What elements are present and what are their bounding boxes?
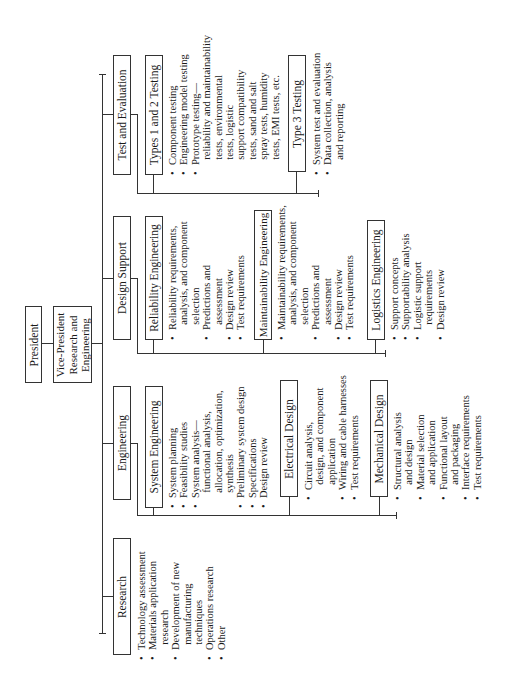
vice-president-label: Vice-President Research and Engineering xyxy=(54,312,92,377)
system-engineering-items: System planning Feasibility studies Syst… xyxy=(167,387,270,508)
eng-elec-leg xyxy=(289,497,290,515)
list-item: Data collection, analysis and reporting xyxy=(322,53,345,175)
mechanical-design-label: Mechanical Design xyxy=(373,394,386,483)
list-item: System test and evaluation xyxy=(311,53,322,175)
eng-sys-leg xyxy=(153,508,154,515)
types-1-2-testing-label: Types 1 and 2 Testing xyxy=(148,65,161,165)
ds-bus xyxy=(137,353,385,354)
maintainability-engineering-box: Maintainability Engineering xyxy=(254,210,272,340)
reliability-engineering-label: Reliability Engineering xyxy=(148,224,161,332)
list-item: Wiring and cable harnesses xyxy=(337,375,348,500)
list-item: Other xyxy=(216,551,227,660)
vp-trunk-connector xyxy=(91,343,102,344)
list-item: Logistic support requirements xyxy=(412,233,435,340)
ds-log-leg xyxy=(375,340,376,353)
list-item: Design review xyxy=(224,221,235,340)
mechanical-design-box: Mechanical Design xyxy=(370,380,388,497)
list-item: Predictions and assessment xyxy=(201,221,224,340)
mechanical-design-items: Structural analysis and design Material … xyxy=(392,395,483,500)
engineering-box: Engineering xyxy=(113,386,131,500)
list-item: Maintainability requirements, analysis, … xyxy=(276,205,310,340)
connector-test-eval xyxy=(102,114,113,115)
te-stub xyxy=(130,114,137,115)
list-item: Specifications xyxy=(247,387,258,508)
te-t12-leg xyxy=(153,175,154,193)
list-item: Functional layout and packaging xyxy=(438,395,461,500)
list-item: Test requirements xyxy=(344,205,355,340)
list-item: Operations research xyxy=(204,551,215,660)
list-item: Design review xyxy=(258,387,269,508)
eng-stub xyxy=(130,443,137,444)
eng-drop xyxy=(137,443,138,515)
eng-mech-leg xyxy=(379,497,380,515)
types-1-2-testing-items: Component testing Engineering model test… xyxy=(167,35,281,175)
connector-engineering xyxy=(102,443,113,444)
logistics-engineering-items: Support concepts Supportability analysis… xyxy=(389,233,446,340)
list-item: Design review xyxy=(435,233,446,340)
te-bus xyxy=(137,193,318,194)
test-evaluation-label: Test and Evaluation xyxy=(116,69,129,160)
list-item: Predictions and assessment xyxy=(310,205,333,340)
system-engineering-label: System Engineering xyxy=(148,401,161,494)
ds-maint-leg xyxy=(263,340,264,353)
design-support-box: Design Support xyxy=(113,216,131,340)
list-item: Engineering model testing xyxy=(178,35,189,175)
design-support-label: Design Support xyxy=(116,242,129,314)
eng-bus-end xyxy=(396,512,397,519)
list-item: Supportability analysis xyxy=(400,233,411,340)
engineering-label: Engineering xyxy=(116,415,129,471)
ds-stub xyxy=(130,278,137,279)
list-item: Development of new manufacturing techniq… xyxy=(170,551,204,660)
reliability-engineering-box: Reliability Engineering xyxy=(145,216,163,340)
test-evaluation-box: Test and Evaluation xyxy=(113,55,131,175)
te-drop xyxy=(137,114,138,193)
electrical-design-box: Electrical Design xyxy=(280,380,298,497)
te-t3-leg xyxy=(296,172,297,193)
trunk-top-cap xyxy=(99,74,106,75)
maintainability-engineering-label: Maintainability Engineering xyxy=(257,213,269,337)
electrical-design-label: Electrical Design xyxy=(283,399,296,479)
list-item: Preliminary system design xyxy=(235,387,246,508)
list-item: Test requirements xyxy=(235,221,246,340)
vice-president-box: Vice-President Research and Engineering xyxy=(53,306,92,383)
connector-research xyxy=(102,596,113,597)
ds-bus-end xyxy=(385,350,386,357)
maintainability-engineering-items: Maintainability requirements, analysis, … xyxy=(276,205,356,340)
list-item: Test requirements xyxy=(349,375,360,500)
list-item: Component testing xyxy=(167,35,178,175)
research-items: Technology assessment Materials applicat… xyxy=(136,551,227,660)
research-box: Research xyxy=(113,538,131,655)
list-item: Technology assessment xyxy=(136,551,147,660)
ds-drop xyxy=(137,278,138,353)
trunk-bottom-cap xyxy=(99,633,106,634)
eng-bus xyxy=(137,515,397,516)
list-item: System planning xyxy=(167,387,178,508)
list-item: Material selection and application xyxy=(415,395,438,500)
list-item: Prototype testing— reliability and maint… xyxy=(190,35,281,175)
list-item: Design review xyxy=(333,205,344,340)
main-trunk xyxy=(102,74,103,634)
types-1-2-testing-box: Types 1 and 2 Testing xyxy=(145,55,163,175)
connector-design-support xyxy=(102,278,113,279)
research-label: Research xyxy=(116,575,129,617)
type-3-testing-box: Type 3 Testing xyxy=(288,55,306,172)
reliability-engineering-items: Reliability requirements, analysis, and … xyxy=(167,221,247,340)
list-item: Interface requirements xyxy=(460,395,471,500)
ds-rel-leg xyxy=(153,340,154,353)
list-item: System analysis— functional analysis, al… xyxy=(190,387,236,508)
org-chart: President Vice-President Research and En… xyxy=(0,0,507,681)
list-item: Reliability requirements, analysis, and … xyxy=(167,221,201,340)
president-label: President xyxy=(27,323,40,366)
president-box: President xyxy=(25,306,42,383)
te-bus-end xyxy=(318,190,319,197)
system-engineering-box: System Engineering xyxy=(145,386,163,508)
type-3-testing-label: Type 3 Testing xyxy=(291,80,304,148)
list-item: Structural analysis and design xyxy=(392,395,415,500)
type-3-testing-items: System test and evaluation Data collecti… xyxy=(311,53,345,175)
list-item: Feasibility studies xyxy=(178,387,189,508)
list-item: Support concepts xyxy=(389,233,400,340)
logistics-engineering-label: Logistics Engineering xyxy=(370,229,383,330)
list-item: Test requirements xyxy=(472,395,483,500)
electrical-design-items: Circuit analysis, design, and component … xyxy=(303,375,360,500)
logistics-engineering-box: Logistics Engineering xyxy=(367,220,385,340)
